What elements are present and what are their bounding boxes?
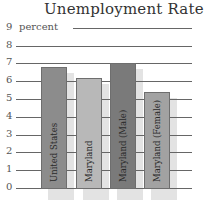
bar-label: United States xyxy=(49,123,59,182)
y-tick-label: 5 xyxy=(6,93,12,103)
y-tick-label: 2 xyxy=(6,146,12,156)
gridline xyxy=(73,28,192,29)
y-tick-label: 4 xyxy=(6,111,12,121)
y-tick-label: 9 xyxy=(6,22,12,32)
y-axis-unit: percent xyxy=(19,22,58,32)
gridline xyxy=(16,63,192,64)
bar-label: Maryland (Male) xyxy=(118,110,128,182)
y-tick-label: 6 xyxy=(6,75,12,85)
chart-title: Unemployment Rate xyxy=(44,0,204,18)
y-tick-label: 3 xyxy=(6,129,12,139)
bar-label: Maryland xyxy=(84,141,94,182)
bar-label: Maryland (Female) xyxy=(152,100,162,182)
y-tick-label: 0 xyxy=(6,182,12,192)
y-tick-label: 7 xyxy=(6,57,12,67)
gridline xyxy=(16,46,192,47)
y-tick-label: 1 xyxy=(6,164,12,174)
y-tick-label: 8 xyxy=(6,40,12,50)
